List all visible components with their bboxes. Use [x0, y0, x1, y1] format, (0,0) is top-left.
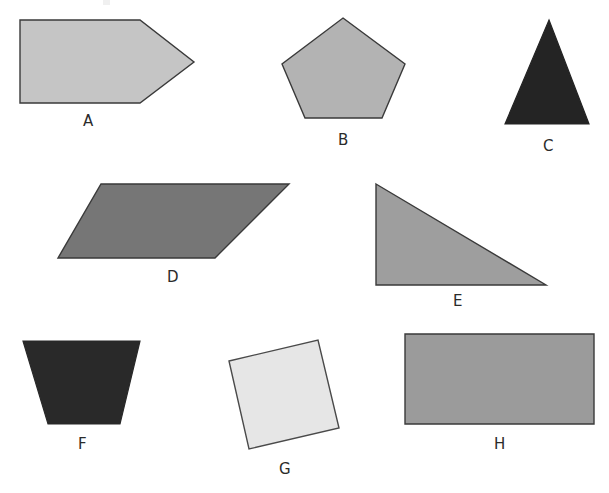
shape-e-right-triangle[interactable] — [376, 184, 546, 285]
shape-d-parallelogram[interactable] — [58, 184, 289, 258]
shape-h-rectangle[interactable] — [405, 334, 594, 424]
shape-g-square[interactable] — [229, 340, 339, 449]
shape-b-pentagon[interactable] — [282, 18, 405, 118]
shape-label-h: H — [494, 437, 505, 452]
shapes-svg — [0, 0, 609, 493]
shape-label-f: F — [78, 437, 87, 452]
shape-label-b: B — [338, 133, 349, 148]
shape-a-pentagon[interactable] — [20, 20, 194, 103]
shape-label-g: G — [279, 462, 291, 477]
shape-label-d: D — [167, 270, 179, 285]
worksheet-canvas: A B C D E F G H — [0, 0, 609, 493]
shape-label-c: C — [543, 139, 554, 154]
shape-label-e: E — [453, 294, 463, 309]
shape-f-trapezoid[interactable] — [23, 341, 140, 424]
shape-label-a: A — [83, 114, 93, 129]
shape-c-triangle[interactable] — [505, 20, 589, 124]
